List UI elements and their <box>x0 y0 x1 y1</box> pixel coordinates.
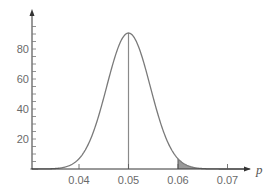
y-tick-label: 40 <box>17 103 29 115</box>
density-curve <box>30 33 249 169</box>
x-tick-label: 0.06 <box>167 174 188 186</box>
y-axis <box>30 9 37 169</box>
x-tick-label: 0.04 <box>68 174 89 186</box>
x-tick-labels: 0.040.050.060.07 <box>68 174 238 186</box>
y-tick-label: 60 <box>17 73 29 85</box>
y-tick-label: 80 <box>17 43 29 55</box>
normal-distribution-chart: 20406080 0.040.050.060.07 p <box>0 0 276 191</box>
y-tick-label: 20 <box>17 133 29 145</box>
x-axis-label: p <box>255 162 263 177</box>
x-tick-label: 0.05 <box>118 174 139 186</box>
x-tick-label: 0.07 <box>217 174 238 186</box>
y-axis-arrow-icon <box>30 9 35 16</box>
y-tick-labels: 20406080 <box>17 43 29 145</box>
shaded-tail-area <box>178 159 250 169</box>
x-axis-arrow-icon <box>244 167 251 172</box>
